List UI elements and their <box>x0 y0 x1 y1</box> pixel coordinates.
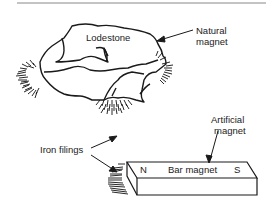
natural-magnet-label-line1: Natural <box>196 25 227 36</box>
magnet-diagram: Lodestone Natural magnet Artificial magn… <box>0 0 273 212</box>
artificial-magnet-label-line2: magnet <box>214 125 246 136</box>
iron-filings-lodestone-left <box>16 60 39 98</box>
lodestone-label: Lodestone <box>86 32 130 43</box>
iron-filings-label: Iron filings <box>40 144 83 155</box>
iron-filings-lodestone-right <box>156 51 173 84</box>
natural-magnet-label-line2: magnet <box>196 36 228 47</box>
iron-filings-lodestone-bottom <box>96 100 132 115</box>
south-pole-label: S <box>234 164 240 175</box>
north-pole-label: N <box>140 164 147 175</box>
bar-magnet-label: Bar magnet <box>168 164 217 175</box>
arrows <box>91 30 218 172</box>
artificial-magnet-label-line1: Artificial <box>211 114 244 125</box>
